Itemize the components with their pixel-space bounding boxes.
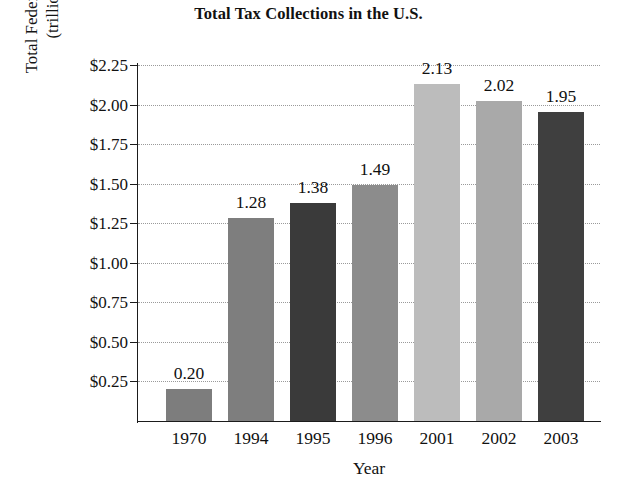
bar[interactable] — [538, 112, 584, 421]
y-axis-tick-labels: $2.25$2.00$1.75$1.50$1.25$1.00$0.75$0.50… — [52, 0, 128, 492]
bar[interactable] — [166, 389, 212, 421]
bar[interactable] — [228, 218, 274, 421]
x-axis-tick-label: 2002 — [466, 430, 532, 448]
bar-value-label: 1.28 — [219, 194, 283, 212]
y-axis-tick-label: $0.50 — [58, 334, 128, 351]
y-axis-tick-label: $1.00 — [58, 255, 128, 272]
y-axis-tick-label: $0.25 — [58, 373, 128, 390]
bar-value-label: 2.13 — [405, 60, 469, 78]
bar-value-label: 1.49 — [343, 161, 407, 179]
bar-value-label: 0.20 — [157, 365, 221, 383]
x-axis-tick-label: 1994 — [218, 430, 284, 448]
x-axis-line — [137, 421, 601, 422]
y-axis-tick-label: $1.50 — [58, 176, 128, 193]
bar[interactable] — [290, 203, 336, 421]
bar-chart: Total Tax Collections in the U.S. Total … — [0, 0, 617, 492]
bar[interactable] — [476, 101, 522, 421]
y-axis-tick-label: $2.00 — [58, 97, 128, 114]
y-axis-tick-label: $2.25 — [58, 57, 128, 74]
y-axis-tick-label: $1.75 — [58, 136, 128, 153]
y-axis-tick-label: $1.25 — [58, 215, 128, 232]
x-axis-tick-label: 1995 — [280, 430, 346, 448]
x-axis-tick-label: 1970 — [156, 430, 222, 448]
bar[interactable] — [414, 84, 460, 421]
x-axis-tick-label: 2003 — [528, 430, 594, 448]
bar-value-label: 1.38 — [281, 179, 345, 197]
x-axis-tick-label: 1996 — [342, 430, 408, 448]
bar-value-label: 2.02 — [467, 77, 531, 95]
y-axis-tick-label: $0.75 — [58, 294, 128, 311]
y-axis-title-line1: Total Federal Taxes Collected — [21, 0, 42, 73]
x-axis-title: Year — [138, 458, 600, 479]
bar-value-label: 1.95 — [529, 88, 593, 106]
x-axis-tick-label: 2001 — [404, 430, 470, 448]
bar[interactable] — [352, 185, 398, 421]
